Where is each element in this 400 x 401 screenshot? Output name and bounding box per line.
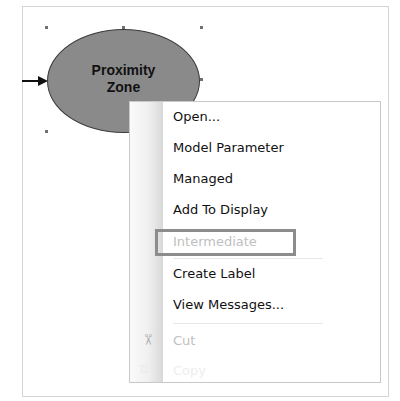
menu-item-model-parameter[interactable]: Model Parameter: [173, 137, 284, 159]
menu-item-view-messages[interactable]: View Messages...: [173, 294, 284, 316]
menu-separator: [173, 258, 323, 259]
intermediate-highlight-box: [155, 229, 296, 256]
menu-separator: [173, 323, 323, 324]
model-element-label: Proximity Zone: [47, 62, 200, 96]
menu-item-copy[interactable]: Copy: [173, 360, 206, 382]
menu-item-cut[interactable]: Cut: [173, 330, 195, 352]
model-element-label-line1: Proximity: [47, 62, 200, 79]
menu-item-managed[interactable]: Managed: [173, 168, 233, 190]
model-element-label-line2: Zone: [47, 79, 200, 96]
selection-handle-top-left[interactable]: [45, 26, 48, 29]
menu-item-add-to-display[interactable]: Add To Display: [173, 199, 268, 221]
scissors-icon: ✂: [139, 334, 157, 347]
selection-handle-bottom-left[interactable]: [45, 130, 48, 133]
copy-icon: ⧉: [140, 362, 149, 376]
selection-handle-middle-right[interactable]: [200, 78, 203, 81]
menu-item-create-label[interactable]: Create Label: [173, 263, 255, 285]
selection-handle-top-right[interactable]: [200, 26, 203, 29]
menu-item-open[interactable]: Open...: [173, 106, 220, 128]
